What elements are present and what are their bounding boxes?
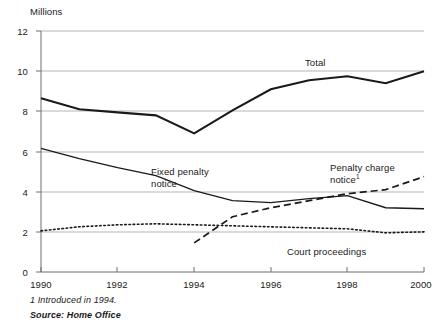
- x-tick-label-1996: 1996: [251, 279, 291, 290]
- y-tick-label-12: 12: [6, 26, 28, 37]
- penalty-charge-notice-label-line1: Penalty charge: [330, 162, 395, 173]
- x-tick-label-1994: 1994: [174, 279, 214, 290]
- y-tick-label-10: 10: [6, 66, 28, 77]
- y-axis-title: Millions: [30, 6, 62, 17]
- y-tick-label-6: 6: [6, 147, 28, 158]
- penalty-charge-notice-footnote-marker: 1: [356, 172, 360, 179]
- y-tick-label-4: 4: [6, 187, 28, 198]
- fixed-penalty-notice-label: Fixed penalty notice: [151, 166, 209, 189]
- court-proceedings-label: Court proceedings: [287, 246, 366, 258]
- x-tick-label-1992: 1992: [97, 279, 137, 290]
- fixed-penalty-notice-label-line2: notice: [151, 178, 177, 189]
- x-axis-ticks: [41, 267, 424, 272]
- total-label: Total: [305, 57, 326, 69]
- y-tick-label-0: 0: [6, 267, 28, 278]
- x-tick-label-1998: 1998: [327, 279, 367, 290]
- chart-figure: Millions 12 10 8 6 4 2 0 1990 1992 1994 …: [0, 0, 435, 334]
- y-axis-ticks: [36, 31, 41, 272]
- series-line-court-proceedings: [41, 224, 424, 233]
- series-line-total: [41, 71, 424, 133]
- footnote-source: Source: Home Office: [30, 310, 121, 320]
- x-tick-label-2000: 2000: [401, 279, 435, 290]
- penalty-charge-notice-label: Penalty charge notice1: [330, 162, 395, 185]
- y-tick-label-2: 2: [6, 227, 28, 238]
- y-tick-label-8: 8: [6, 106, 28, 117]
- data-series: [41, 71, 424, 243]
- penalty-charge-notice-label-line2: notice: [330, 174, 356, 185]
- footnote-note: 1 Introduced in 1994.: [30, 295, 117, 305]
- x-tick-label-1990: 1990: [21, 279, 61, 290]
- fixed-penalty-notice-label-line1: Fixed penalty: [151, 166, 209, 177]
